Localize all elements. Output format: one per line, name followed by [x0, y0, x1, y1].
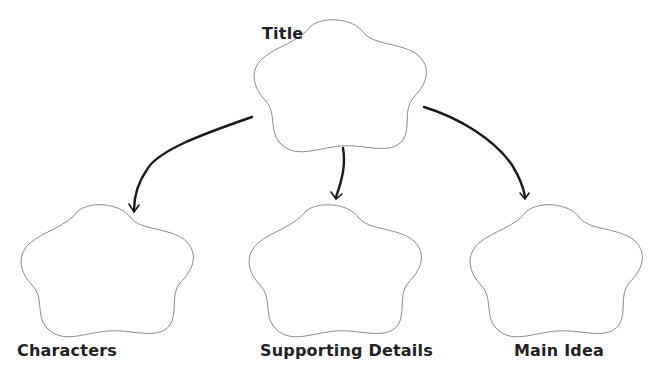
arrow-to-main-idea	[424, 107, 529, 199]
arrow-to-supporting-details	[331, 148, 344, 199]
diagram-canvas	[0, 0, 658, 372]
supporting-details-label: Supporting Details	[260, 341, 433, 360]
main-idea-label: Main Idea	[514, 341, 604, 360]
characters-cloud[interactable]	[21, 205, 193, 337]
main-idea-cloud[interactable]	[470, 205, 642, 337]
arrow-to-characters	[129, 117, 252, 212]
characters-label: Characters	[17, 341, 117, 360]
supporting-details-cloud[interactable]	[249, 205, 421, 337]
title-label: Title	[262, 24, 303, 43]
